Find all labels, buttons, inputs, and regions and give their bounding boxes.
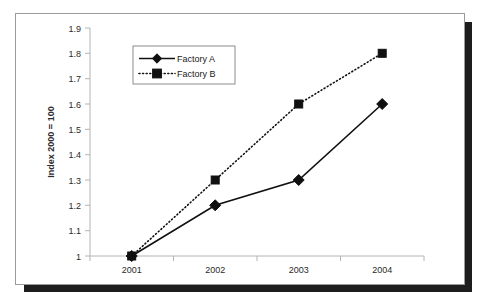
y-tick-label: 1 (76, 252, 81, 262)
y-tick-label: 1.1 (68, 226, 81, 236)
y-tick-label: 1.4 (68, 150, 81, 160)
y-tick-label: 1.7 (68, 74, 81, 84)
series-factory-a-line (132, 104, 383, 256)
chart-frame: 1.9 1.8 1.7 1.6 1.5 1.4 1.3 1.2 1.1 1 (15, 13, 465, 285)
y-tick-label: 1.9 (68, 24, 81, 34)
y-axis-title: Index 2000 = 100 (46, 106, 56, 177)
chart-legend[interactable]: Factory A Factory B (133, 46, 235, 84)
x-tick-label: 2002 (205, 265, 225, 275)
chart-figure: 1.9 1.8 1.7 1.6 1.5 1.4 1.3 1.2 1.1 1 (0, 0, 496, 301)
x-tick-label: 2001 (122, 265, 142, 275)
y-tick-label: 1.6 (68, 100, 81, 110)
line-chart-plot: 1.9 1.8 1.7 1.6 1.5 1.4 1.3 1.2 1.1 1 (16, 14, 464, 284)
y-tick-label: 1.5 (68, 125, 81, 135)
y-tick-label: 1.3 (68, 176, 81, 186)
legend-label-factory-a: Factory A (177, 54, 215, 64)
x-tick-label: 2004 (372, 265, 392, 275)
x-axis-ticks: 2001 2002 2003 2004 (90, 256, 424, 275)
legend-label-factory-b: Factory B (177, 69, 216, 79)
series-factory-a-markers (126, 99, 388, 262)
y-axis-ticks: 1.9 1.8 1.7 1.6 1.5 1.4 1.3 1.2 1.1 1 (68, 24, 90, 262)
y-tick-label: 1.2 (68, 201, 81, 211)
legend-marker-square-icon (153, 69, 162, 78)
x-tick-label: 2003 (289, 265, 309, 275)
y-tick-label: 1.8 (68, 49, 81, 59)
